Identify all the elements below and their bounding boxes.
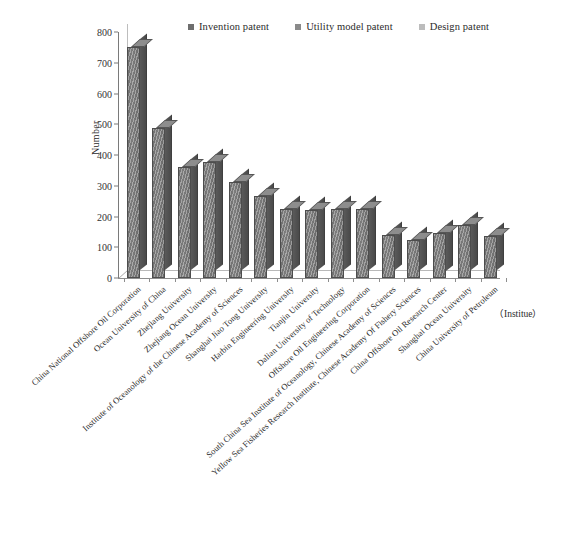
bar-chart: Invention patent Utility model patent De…	[0, 0, 562, 549]
x-category-label-group: China National Offshore Oil CorporationO…	[0, 0, 562, 549]
x-axis-unit-label: （Institue）	[494, 306, 543, 320]
x-category-label: China National Offshore Oil Corporation	[29, 284, 142, 387]
